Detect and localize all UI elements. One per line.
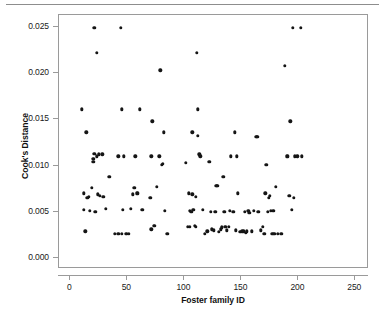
scatter-point <box>234 229 237 232</box>
scatter-point <box>199 155 202 158</box>
x-axis-tick <box>126 275 127 280</box>
scatter-point <box>82 208 85 211</box>
scatter-point <box>121 208 124 211</box>
scatter-point <box>252 209 255 212</box>
scatter-point <box>148 196 151 199</box>
scatter-point <box>235 155 238 158</box>
scatter-point <box>158 155 161 158</box>
scatter-point <box>290 208 293 211</box>
scatter-point <box>262 232 265 235</box>
scatter-point <box>216 184 219 187</box>
scatter-point <box>299 26 302 29</box>
x-axis-tick-label: 0 <box>67 282 72 292</box>
x-axis-tick-label: 200 <box>290 282 304 292</box>
scatter-point <box>150 155 153 158</box>
scatter-point <box>153 224 156 227</box>
y-axis-tick <box>53 72 58 73</box>
scatter-point <box>140 208 143 211</box>
y-axis-title: Cook's Distance <box>20 76 30 216</box>
scatter-point <box>245 229 248 232</box>
scatter-point <box>248 211 251 214</box>
scatter-point <box>151 120 154 123</box>
scatter-point <box>120 108 123 111</box>
scatter-point <box>195 51 198 54</box>
scatter-point <box>90 186 93 189</box>
scatter-point <box>288 194 291 197</box>
scatter-point <box>300 155 303 158</box>
scatter-point <box>127 232 130 235</box>
scatter-point <box>80 108 83 111</box>
scatter-point <box>120 232 123 235</box>
scatter-point <box>259 229 262 232</box>
y-axis-tick <box>53 26 58 27</box>
x-axis-tick <box>354 275 355 280</box>
scatter-point <box>250 229 253 232</box>
scatter-point <box>85 131 88 134</box>
scatter-point <box>84 229 87 232</box>
scatter-point <box>122 155 125 158</box>
scatter-point <box>155 185 158 188</box>
header-divider <box>6 4 379 5</box>
x-axis-tick <box>69 275 70 280</box>
scatter-point <box>94 210 97 213</box>
scatter-point <box>192 208 195 211</box>
y-axis-tick <box>53 257 58 258</box>
scatter-point <box>213 210 216 213</box>
scatter-point <box>283 64 286 67</box>
scatter-point <box>196 108 199 111</box>
x-axis-tick <box>183 275 184 280</box>
scatter-point <box>150 228 153 231</box>
scatter-point <box>256 135 259 138</box>
scatter-point <box>229 155 232 158</box>
scatter-point <box>196 134 199 137</box>
scatter-point <box>261 225 264 228</box>
scatter-point <box>203 232 206 235</box>
scatter-point <box>161 162 164 165</box>
scatter-point <box>134 155 137 158</box>
scatter-point <box>88 209 91 212</box>
x-axis-tick-label: 50 <box>122 282 131 292</box>
scatter-point <box>217 230 220 233</box>
scatter-point <box>82 192 85 195</box>
scatter-point <box>223 210 226 213</box>
scatter-point <box>201 208 204 211</box>
scatter-point <box>272 209 275 212</box>
scatter-points-layer <box>59 15 367 267</box>
scatter-point <box>232 210 235 213</box>
scatter-point <box>194 195 197 198</box>
scatter-point <box>236 192 239 195</box>
scatter-point <box>117 155 120 158</box>
scatter-point <box>133 186 136 189</box>
y-axis-tick-label: 0.025 <box>0 21 49 31</box>
scatter-point <box>136 192 139 195</box>
x-axis-tick-label: 100 <box>176 282 190 292</box>
scatter-point <box>159 69 162 72</box>
scatter-point <box>208 160 211 163</box>
scatter-plot-figure: 0.0000.0050.0100.0150.0200.025 050100150… <box>0 0 385 317</box>
scatter-point <box>257 210 260 213</box>
scatter-point <box>286 155 289 158</box>
scatter-point <box>138 108 141 111</box>
scatter-point <box>91 160 94 163</box>
scatter-point <box>129 207 132 210</box>
x-axis-title: Foster family ID <box>58 295 368 305</box>
scatter-point <box>101 153 104 156</box>
scatter-point <box>102 195 105 198</box>
scatter-point <box>162 131 165 134</box>
scatter-point <box>166 232 169 235</box>
scatter-point <box>209 210 212 213</box>
scatter-point <box>119 26 122 29</box>
scatter-point <box>107 175 110 178</box>
x-axis-tick-label: 150 <box>233 282 247 292</box>
scatter-point <box>163 209 166 212</box>
scatter-point <box>227 225 230 228</box>
scatter-point <box>205 229 208 232</box>
scatter-point <box>212 229 215 232</box>
plot-area-frame <box>58 14 368 268</box>
x-axis-line <box>58 275 368 276</box>
scatter-point <box>292 196 295 199</box>
y-axis-tick <box>53 118 58 119</box>
x-axis-tick <box>240 275 241 280</box>
scatter-point <box>194 225 197 228</box>
scatter-point <box>280 232 283 235</box>
